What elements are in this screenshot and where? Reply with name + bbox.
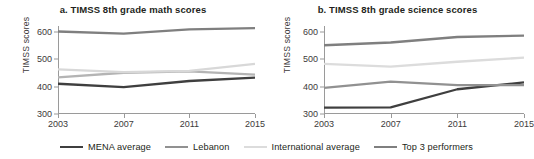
x-tick-label: 2007 <box>381 119 401 129</box>
x-tick-mark <box>58 114 59 118</box>
legend-label: MENA average <box>88 142 151 152</box>
chart-panel-math: a. TIMSS 8th grade math scores TIMSS sco… <box>0 0 266 135</box>
legend-line-icon <box>374 146 397 149</box>
series-line <box>58 28 255 34</box>
plot-area-science: 3004005006002003200720112015 <box>324 26 524 114</box>
x-tick-mark <box>189 114 190 118</box>
series-line <box>58 78 255 87</box>
y-tick-label: 500 <box>303 54 318 64</box>
x-tick-mark <box>124 114 125 118</box>
y-axis-label-math: TIMSS scores <box>21 10 31 80</box>
legend-line-icon <box>60 146 83 149</box>
x-tick-mark <box>255 114 256 118</box>
panel-title-math: a. TIMSS 8th grade math scores <box>0 4 266 15</box>
x-tick-mark <box>524 114 525 118</box>
x-tick-label: 2011 <box>448 119 467 129</box>
x-tick-label: 2007 <box>114 119 134 129</box>
legend-label: International average <box>272 142 360 152</box>
x-tick-label: 2015 <box>514 119 534 129</box>
series-line <box>324 58 524 67</box>
y-tick-label: 500 <box>37 54 52 64</box>
y-tick-label: 400 <box>303 82 318 92</box>
y-tick-label: 300 <box>37 109 52 119</box>
series-line <box>58 64 255 72</box>
series-line <box>324 36 524 46</box>
legend-line-icon <box>244 146 267 149</box>
y-tick-label: 400 <box>37 82 52 92</box>
legend-label: Top 3 performers <box>402 142 473 152</box>
legend-item: Lebanon <box>165 142 229 152</box>
x-tick-label: 2003 <box>314 119 334 129</box>
figure-legend: MENA averageLebanonInternational average… <box>0 137 533 157</box>
legend-item: International average <box>244 142 360 152</box>
legend-line-icon <box>165 146 188 149</box>
series-line <box>324 82 524 88</box>
legend-label: Lebanon <box>193 142 229 152</box>
legend-item: Top 3 performers <box>374 142 473 152</box>
x-tick-mark <box>457 114 458 118</box>
plot-area-math: 3004005006002003200720112015 <box>58 26 255 114</box>
y-tick-label: 600 <box>303 27 318 37</box>
y-tick-label: 600 <box>37 27 52 37</box>
chart-panel-science: b. TIMSS 8th grade science scores TIMSS … <box>262 0 533 135</box>
x-tick-mark <box>324 114 325 118</box>
legend-item: MENA average <box>60 142 151 152</box>
y-tick-label: 300 <box>303 109 318 119</box>
x-tick-label: 2011 <box>180 119 199 129</box>
series-lines <box>324 26 524 114</box>
x-tick-mark <box>391 114 392 118</box>
x-tick-label: 2003 <box>48 119 68 129</box>
series-lines <box>58 26 255 114</box>
y-axis-label-science: TIMSS scores <box>282 10 292 80</box>
panel-title-science: b. TIMSS 8th grade science scores <box>262 4 533 15</box>
